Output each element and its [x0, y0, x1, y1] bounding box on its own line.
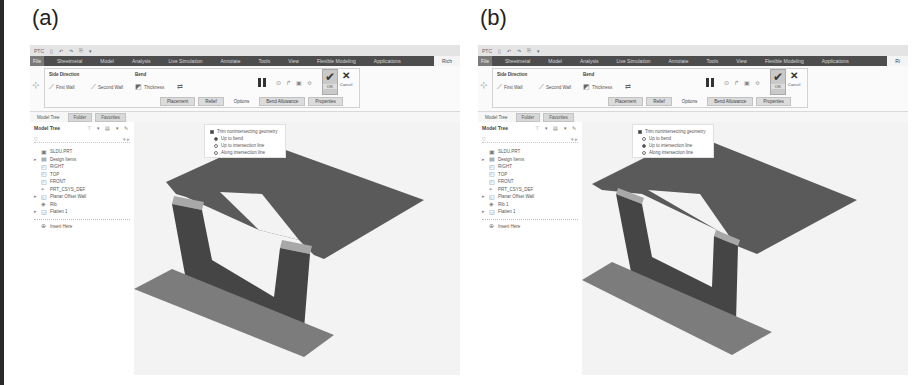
trim-nonintersecting-checkbox[interactable]: Trim nonintersecting geometry: [210, 128, 280, 135]
menu-tools[interactable]: Tools: [249, 58, 279, 64]
menu-applications[interactable]: Applications: [365, 58, 410, 64]
preview-icon[interactable]: ⊙: [276, 79, 281, 86]
tree-item-wall[interactable]: ▸◱Planar Offset Wall: [482, 193, 578, 201]
menu-active-tab[interactable]: Rich: [434, 56, 460, 66]
menu-tools[interactable]: Tools: [697, 58, 727, 64]
tree-item-rib[interactable]: ◈Rib 1: [482, 201, 578, 209]
tree-tools-icons[interactable]: ⊤ ▾ ▤ ▾ ✎: [87, 125, 130, 131]
first-wall-button[interactable]: ⟋First Wall: [49, 83, 75, 91]
copy-icon[interactable]: ⎘: [79, 47, 83, 54]
nav-tab-model-tree[interactable]: Model Tree: [480, 114, 513, 121]
tab-relief[interactable]: Relief: [198, 97, 224, 106]
ok-button[interactable]: ✔ OK: [322, 69, 338, 95]
menu-live-simulation[interactable]: Live Simulation: [608, 58, 660, 64]
ok-button[interactable]: ✔ OK: [770, 69, 786, 95]
expander[interactable]: ▸: [34, 194, 38, 199]
menu-sheetmetal[interactable]: Sheetmetal: [496, 58, 539, 64]
tab-placement[interactable]: Placement: [608, 97, 643, 106]
radio-up-to-bend[interactable]: Up to bend: [210, 135, 280, 142]
tree-item-front[interactable]: ◰FRONT: [482, 178, 578, 186]
glasses-icon[interactable]: ≎: [755, 79, 760, 86]
new-icon[interactable]: ▯: [498, 48, 501, 54]
menu-applications[interactable]: Applications: [813, 58, 858, 64]
menu-flexible-modeling[interactable]: Flexible Modeling: [308, 58, 365, 64]
second-wall-button[interactable]: ⟋Second Wall: [91, 83, 123, 91]
verify-icon[interactable]: ▣: [296, 79, 302, 86]
copy-icon[interactable]: ⎘: [527, 47, 531, 54]
first-wall-button[interactable]: ⟋First Wall: [497, 83, 523, 91]
tree-item-part[interactable]: ▣SLDU.PRT: [482, 148, 578, 156]
glasses-icon[interactable]: ≎: [307, 79, 312, 86]
tree-item-right[interactable]: ◰RIGHT: [482, 163, 578, 171]
radio-up-to-bend[interactable]: Up to bend: [638, 135, 708, 142]
radio-along-intersection[interactable]: Along intersection line: [638, 149, 708, 156]
qat-more-icon[interactable]: ▾: [89, 48, 92, 54]
cancel-button[interactable]: ✕ Cancel: [340, 70, 352, 87]
verify-icon[interactable]: ▣: [744, 79, 750, 86]
menu-model[interactable]: Model: [91, 58, 123, 64]
filter-controls[interactable]: ▾ ▸: [571, 136, 578, 142]
menu-flexible-modeling[interactable]: Flexible Modeling: [756, 58, 813, 64]
sheetmetal-model[interactable]: [582, 122, 908, 375]
expander[interactable]: ▸: [482, 194, 486, 199]
tree-item-csys[interactable]: ⌖PRT_CSYS_DEF: [482, 186, 578, 194]
pause-button[interactable]: [706, 78, 714, 87]
menu-file[interactable]: File: [30, 56, 44, 66]
tab-properties[interactable]: Properties: [308, 97, 343, 106]
filter-controls[interactable]: ▾ ▸: [123, 136, 130, 142]
nav-tab-favorites[interactable]: Favorites: [543, 113, 574, 122]
undo-icon[interactable]: ↶: [507, 48, 511, 54]
redo-icon[interactable]: ↷: [69, 48, 73, 54]
menu-view[interactable]: View: [279, 58, 308, 64]
redo-icon[interactable]: ↷: [517, 48, 521, 54]
menu-analysis[interactable]: Analysis: [123, 58, 160, 64]
trim-nonintersecting-checkbox[interactable]: Trim nonintersecting geometry: [638, 128, 708, 135]
radio-up-to-intersection[interactable]: Up to intersection line: [638, 142, 708, 149]
tree-item-top[interactable]: ◰TOP: [482, 171, 578, 179]
graphics-viewport[interactable]: Trim nonintersecting geometry Up to bend…: [134, 122, 460, 375]
tree-item-right[interactable]: ◰RIGHT: [34, 163, 130, 171]
nav-tab-folder[interactable]: Folder: [516, 113, 541, 122]
nav-tab-favorites[interactable]: Favorites: [95, 113, 126, 122]
tab-bend-allowance[interactable]: Bend Allowance: [707, 97, 753, 106]
tab-relief[interactable]: Relief: [646, 97, 672, 106]
tree-item-design-items[interactable]: ▸▤Design Items: [34, 156, 130, 164]
menu-file[interactable]: File: [478, 56, 492, 66]
tree-item-part[interactable]: ▣SLDU.PRT: [34, 148, 130, 156]
tree-item-rip[interactable]: ◈Rib: [34, 201, 130, 209]
tree-item-csys[interactable]: ⌖PRT_CSYS_DEF: [34, 186, 130, 194]
menu-model[interactable]: Model: [539, 58, 571, 64]
tree-item-top[interactable]: ◰TOP: [34, 171, 130, 179]
new-icon[interactable]: ▯: [50, 48, 53, 54]
menu-sheetmetal[interactable]: Sheetmetal: [48, 58, 91, 64]
menu-annotate[interactable]: Annotate: [659, 58, 697, 64]
tree-tools-icons[interactable]: ⊤ ▾ ▤ ▾ ✎: [535, 125, 578, 131]
tree-filter[interactable]: ▽ ▾ ▸: [482, 136, 578, 143]
expander[interactable]: ▸: [34, 157, 38, 162]
tab-bend-allowance[interactable]: Bend Allowance: [259, 97, 305, 106]
second-wall-button[interactable]: ⟋Second Wall: [539, 83, 571, 91]
tree-item-insert-here[interactable]: ⊕Insert Here: [482, 223, 578, 231]
nav-tab-folder[interactable]: Folder: [68, 113, 93, 122]
expander[interactable]: ▸: [482, 209, 486, 214]
tab-options[interactable]: Options: [227, 97, 257, 106]
bend-flip-button[interactable]: ⇄: [177, 83, 183, 91]
bend-radius-field[interactable]: ◩Thickness: [135, 83, 164, 91]
expander[interactable]: ▸: [482, 157, 486, 162]
tree-item-wall[interactable]: ▸◱Planar Offset Wall: [34, 193, 130, 201]
tab-placement[interactable]: Placement: [160, 97, 195, 106]
tree-item-front[interactable]: ◰FRONT: [34, 178, 130, 186]
nav-tab-model-tree[interactable]: Model Tree: [32, 114, 65, 121]
menu-live-simulation[interactable]: Live Simulation: [160, 58, 212, 64]
attached-preview-icon[interactable]: ↱: [286, 79, 291, 86]
tree-item-design-items[interactable]: ▸▤Design Items: [482, 156, 578, 164]
bend-radius-field[interactable]: ◩Thickness: [583, 83, 612, 91]
pause-button[interactable]: [258, 78, 266, 87]
preview-icon[interactable]: ⊙: [724, 79, 729, 86]
sheetmetal-model[interactable]: [134, 122, 460, 375]
tab-options[interactable]: Options: [675, 97, 705, 106]
menu-view[interactable]: View: [727, 58, 756, 64]
bend-flip-button[interactable]: ⇄: [625, 83, 631, 91]
radio-along-intersection[interactable]: Along intersection line: [210, 149, 280, 156]
tree-item-insert-here[interactable]: ⊕Insert Here: [34, 223, 130, 231]
